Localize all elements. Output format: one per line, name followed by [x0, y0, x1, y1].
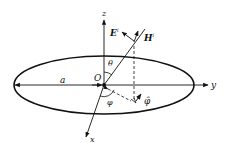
phi-hat-marker — [131, 98, 136, 103]
H-field-sup: i — [153, 32, 155, 38]
H-vector-arrow — [134, 31, 138, 42]
E-field-label: Ei — [109, 27, 119, 38]
E-vector-arrow — [122, 32, 134, 41]
z-axis-label: z — [101, 9, 107, 18]
theta-arc — [104, 72, 112, 75]
H-field-symbol: H — [143, 33, 153, 43]
phi-hat-arrow — [136, 94, 141, 101]
diagram-canvas: z y x O a θ φ φ̂ Ei Hi — [0, 0, 225, 151]
phi-hat-label: φ̂ — [144, 96, 151, 106]
origin-label: O — [94, 73, 102, 83]
E-field-sup: i — [117, 27, 119, 33]
x-axis-line — [86, 85, 104, 137]
phi-label: φ — [107, 98, 113, 107]
E-field-symbol: E — [109, 28, 117, 38]
radius-label: a — [60, 75, 65, 85]
x-axis-label: x — [90, 135, 95, 144]
H-field-label: Hi — [143, 32, 155, 43]
origin-point — [102, 83, 106, 87]
theta-label: θ — [108, 59, 113, 68]
y-axis-label: y — [210, 80, 217, 90]
